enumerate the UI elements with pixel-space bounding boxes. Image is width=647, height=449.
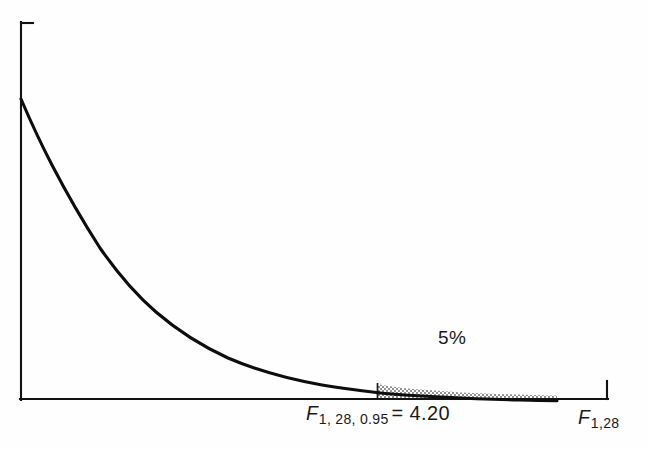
critical-subscript: 1, 28, 0.95 — [319, 411, 389, 427]
tail-percent-label: 5% — [438, 328, 466, 347]
x-axis-variable-label: F1,28 — [578, 408, 619, 431]
axis-f-subscript: 1,28 — [591, 415, 620, 431]
f-density-curve — [21, 99, 557, 401]
f-distribution-figure: 5% F1, 28, 0.95= 4.20 F1,28 — [0, 0, 647, 449]
critical-value-label: F1, 28, 0.95= 4.20 — [306, 404, 450, 427]
tail-percent-text: 5% — [438, 327, 466, 348]
axis-f-symbol: F — [578, 406, 591, 428]
critical-equals-value: = 4.20 — [389, 402, 450, 424]
critical-f-symbol: F — [306, 402, 319, 424]
plot-canvas — [0, 0, 647, 449]
